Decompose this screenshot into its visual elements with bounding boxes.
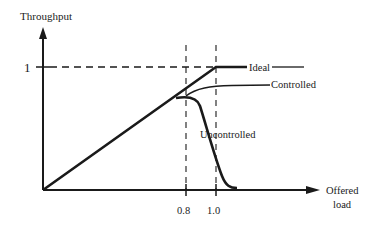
x-tick-label-1.0: 1.0 (207, 205, 220, 216)
ideal-label: Ideal (249, 62, 270, 73)
y-axis-label: Throughput (20, 10, 72, 22)
controlled-label: Controlled (271, 79, 317, 90)
controlled-curve (186, 85, 270, 96)
uncontrolled-label: Uncontrolled (200, 129, 256, 140)
x-axis-label-line1: Offered (326, 185, 359, 196)
x-axis-label-line2: load (333, 199, 352, 210)
y-tick-label: 1 (24, 60, 31, 75)
y-axis-arrow-icon (39, 27, 47, 39)
x-axis-arrow-icon (306, 186, 320, 194)
uncontrolled-curve (176, 97, 237, 188)
congestion-diagram: Throughput 1 Ideal Controlled Uncontroll… (0, 0, 378, 227)
x-tick-label-0.8: 0.8 (177, 205, 190, 216)
